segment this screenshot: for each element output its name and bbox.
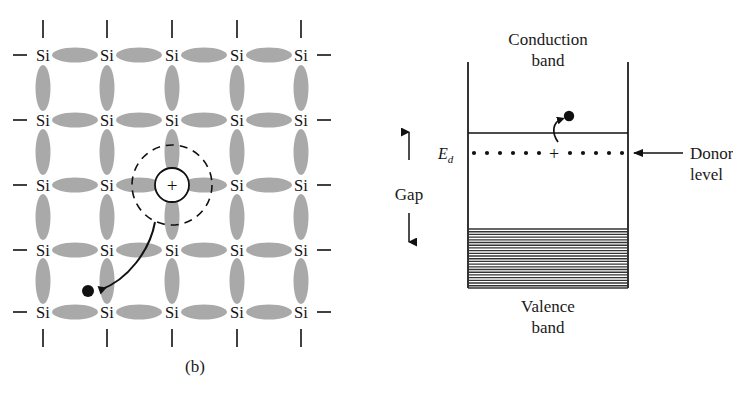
band-diagram-panel: Conduction band Ed + Donor [380, 0, 733, 405]
donor-level-label-line2: level [690, 165, 723, 184]
si-atom: Si [165, 46, 179, 65]
si-atom: Si [294, 111, 308, 130]
donor-level-plus-symbol: + [549, 144, 559, 164]
conduction-band-label-line1: Conduction [508, 30, 588, 49]
conduction-band-label-line2: band [531, 51, 565, 70]
band-diagram: Conduction band Ed + Donor [380, 0, 733, 355]
gap-label: Gap [395, 185, 423, 204]
si-atom: Si [230, 176, 244, 195]
si-atom: Si [100, 241, 114, 260]
si-atom: Si [100, 176, 114, 195]
panel-b-caption: (b) [135, 357, 255, 377]
si-atom: Si [36, 111, 50, 130]
si-atom: Si [230, 111, 244, 130]
si-atom: Si [294, 303, 308, 322]
lattice-panel: Si Si Si Si Si Si Si Si Si Si Si Si Si S… [0, 0, 380, 405]
si-atom: Si [294, 46, 308, 65]
si-atom: Si [100, 111, 114, 130]
valence-band-label-line2: band [531, 318, 565, 337]
si-atom: Si [165, 241, 179, 260]
donor-energy-label: Ed [437, 145, 454, 165]
si-atom: Si [100, 46, 114, 65]
free-electron-dot [82, 285, 94, 297]
si-atom: Si [36, 303, 50, 322]
si-atom: Si [165, 111, 179, 130]
si-atom: Si [230, 46, 244, 65]
donor-ion-plus-symbol: + [167, 175, 178, 196]
donor-level-label-line1: Donor [690, 144, 733, 163]
si-atom: Si [36, 46, 50, 65]
si-atom: Si [165, 303, 179, 322]
excited-electron-dot [564, 111, 574, 121]
lattice-diagram: Si Si Si Si Si Si Si Si Si Si Si Si Si S… [0, 0, 380, 355]
valence-band-hatching [468, 229, 628, 288]
si-atom: Si [294, 241, 308, 260]
si-atom: Si [230, 241, 244, 260]
electron-excitation-arrow [554, 119, 562, 142]
si-atom: Si [294, 176, 308, 195]
si-atom: Si [230, 303, 244, 322]
valence-band-label-line1: Valence [521, 297, 575, 316]
si-atom: Si [36, 176, 50, 195]
si-atom: Si [36, 241, 50, 260]
si-atom: Si [100, 303, 114, 322]
